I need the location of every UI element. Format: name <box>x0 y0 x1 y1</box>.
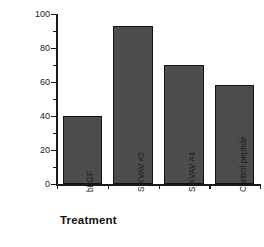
y-tick-label: 80 <box>40 43 50 53</box>
x-tick-mark <box>260 184 261 189</box>
bar-chart-figure: % increase in vascularity after ischemia… <box>0 0 264 247</box>
y-tick-label: 40 <box>40 111 50 121</box>
bar-sikvav-4 <box>164 65 204 184</box>
x-tick-mark <box>209 184 210 189</box>
y-tick-label: 60 <box>40 77 50 87</box>
x-tick-mark <box>57 184 58 189</box>
y-tick-label: 20 <box>40 145 50 155</box>
x-category-label: bFGF <box>86 171 95 192</box>
x-tick-mark <box>159 184 160 189</box>
y-tick-label: 100 <box>35 9 50 19</box>
x-tick-mark <box>108 184 109 189</box>
bar-bfgf <box>63 116 103 184</box>
plot-area: 020406080100 bFGFSIKVAV #2SIKVAV #4Contr… <box>57 14 260 184</box>
x-category-label: Control peptide <box>239 136 248 192</box>
y-tick-label: 0 <box>45 179 50 189</box>
bar-sikvav-2 <box>113 26 153 184</box>
x-category-label: SIKVAV #2 <box>137 152 146 192</box>
bar-control-peptide <box>215 85 255 184</box>
x-category-label: SIKVAV #4 <box>188 152 197 192</box>
x-axis-title: Treatment <box>60 214 117 226</box>
bar-series <box>57 14 260 184</box>
